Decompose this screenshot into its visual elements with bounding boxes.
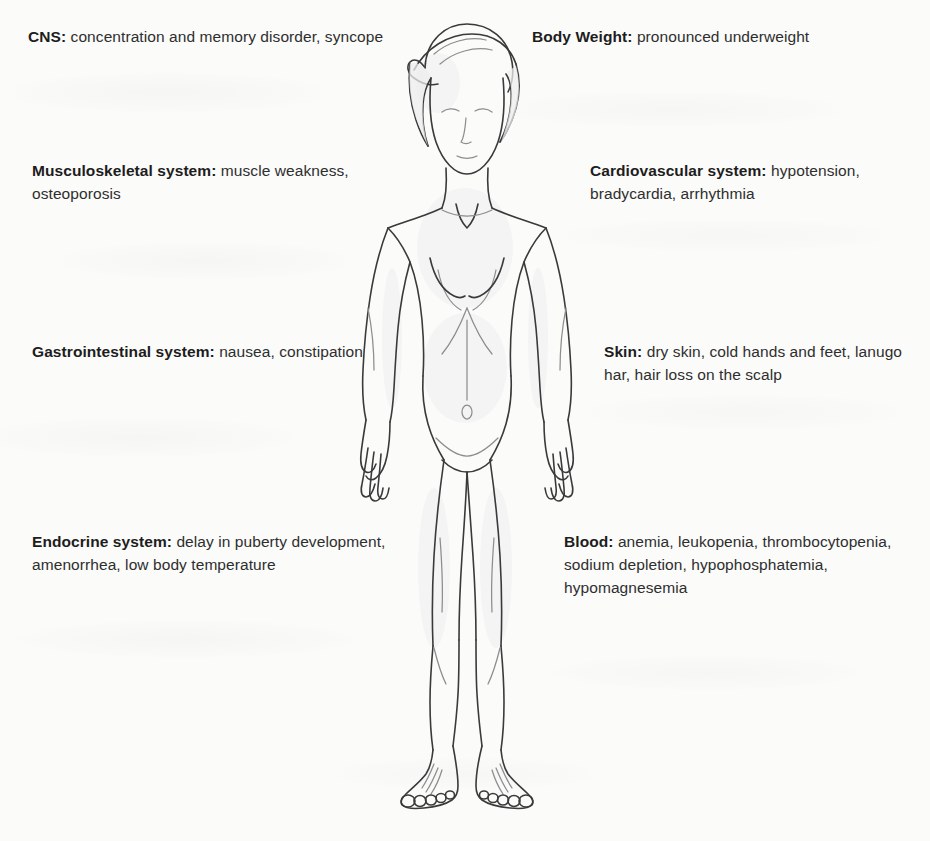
label-body-weight: Body Weight: pronounced underweight <box>532 26 922 49</box>
label-cns-term: CNS: <box>28 28 66 45</box>
label-skin-term: Skin: <box>604 343 642 360</box>
feet <box>401 746 533 808</box>
label-skin-text: dry skin, cold hands and feet, lanugo ha… <box>604 343 902 383</box>
body-figure-svg <box>330 8 600 833</box>
label-musculoskeletal: Musculoskeletal system: muscle weakness,… <box>32 160 392 206</box>
body-figure <box>330 8 600 833</box>
label-cns: CNS: concentration and memory disorder, … <box>28 26 420 49</box>
label-endocrine: Endocrine system: delay in puberty devel… <box>32 531 407 577</box>
label-endocrine-term: Endocrine system: <box>32 533 172 550</box>
label-musculoskeletal-term: Musculoskeletal system: <box>32 162 216 179</box>
label-body-weight-term: Body Weight: <box>532 28 633 45</box>
label-body-weight-text: pronounced underweight <box>633 28 810 45</box>
label-gastrointestinal: Gastrointestinal system: nausea, constip… <box>32 341 392 364</box>
label-blood: Blood: anemia, leukopenia, thrombocytope… <box>564 531 904 599</box>
label-cardiovascular: Cardiovascular system: hypotension, brad… <box>590 160 920 206</box>
label-cardiovascular-term: Cardiovascular system: <box>590 162 767 179</box>
label-cns-text: concentration and memory disorder, synco… <box>66 28 383 45</box>
label-blood-text: anemia, leukopenia, thrombocytopenia, so… <box>564 533 891 596</box>
diagram-page: CNS: concentration and memory disorder, … <box>0 0 930 841</box>
label-gastrointestinal-term: Gastrointestinal system: <box>32 343 215 360</box>
label-skin: Skin: dry skin, cold hands and feet, lan… <box>604 341 924 387</box>
label-gastrointestinal-text: nausea, constipation <box>215 343 363 360</box>
label-blood-term: Blood: <box>564 533 614 550</box>
